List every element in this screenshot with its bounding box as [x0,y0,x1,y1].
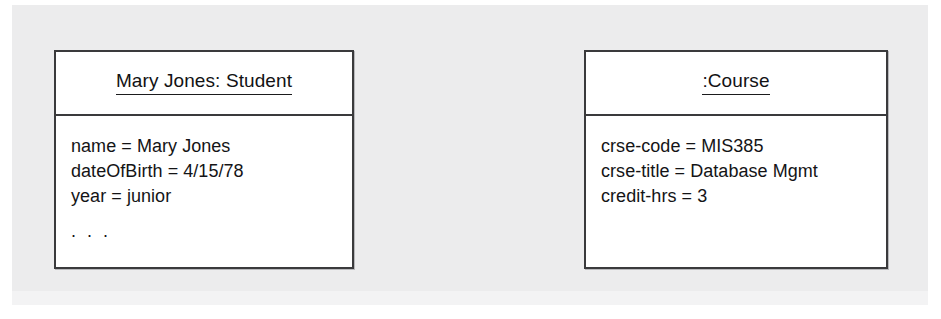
object-header-course: :Course [586,52,886,116]
attribute-continuation-ellipsis: . . . [71,219,352,244]
object-attributes-student: name = Mary Jones dateOfBirth = 4/15/78 … [56,116,352,244]
attribute-line: crse-code = MIS385 [601,134,886,159]
object-title-course: :Course [702,71,769,95]
attribute-line: dateOfBirth = 4/15/78 [71,159,352,184]
object-attributes-course: crse-code = MIS385 crse-title = Database… [586,116,886,209]
attribute-line: credit-hrs = 3 [601,184,886,209]
object-header-student: Mary Jones: Student [56,52,352,116]
attribute-line: name = Mary Jones [71,134,352,159]
diagram-canvas: Mary Jones: Student name = Mary Jones da… [12,5,928,305]
object-title-student: Mary Jones: Student [116,71,292,95]
object-box-student[interactable]: Mary Jones: Student name = Mary Jones da… [54,50,354,269]
object-box-course[interactable]: :Course crse-code = MIS385 crse-title = … [584,50,888,269]
attribute-line: year = junior [71,184,352,209]
attribute-line: crse-title = Database Mgmt [601,159,886,184]
